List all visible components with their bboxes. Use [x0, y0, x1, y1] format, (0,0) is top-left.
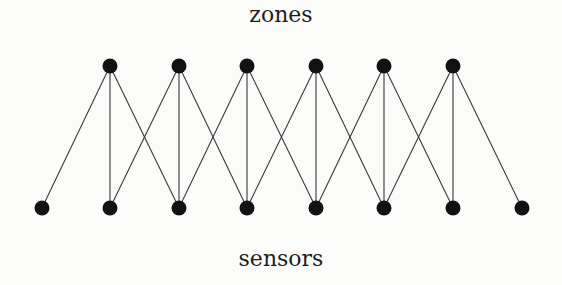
node-sensor-8 — [515, 201, 530, 216]
edges-group — [42, 66, 522, 208]
node-zone-1 — [103, 59, 118, 74]
node-zone-3 — [240, 59, 255, 74]
node-sensor-2 — [103, 201, 118, 216]
node-sensor-3 — [172, 201, 187, 216]
edge-zone-6-sensor-8 — [453, 66, 522, 208]
node-sensor-7 — [446, 201, 461, 216]
node-zone-4 — [309, 59, 324, 74]
node-zone-2 — [172, 59, 187, 74]
node-sensor-4 — [240, 201, 255, 216]
edge-zone-1-sensor-1 — [42, 66, 110, 208]
graph-canvas — [0, 0, 562, 285]
node-zone-6 — [446, 59, 461, 74]
node-sensor-5 — [309, 201, 324, 216]
node-sensor-6 — [377, 201, 392, 216]
node-sensor-1 — [35, 201, 50, 216]
node-zone-5 — [377, 59, 392, 74]
bipartite-diagram: zones sensors — [0, 0, 562, 285]
sensors-label: sensors — [0, 246, 562, 271]
